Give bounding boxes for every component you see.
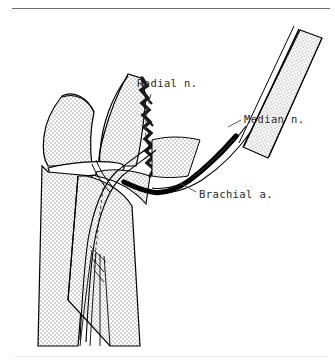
label-radial-nerve: Radial n. [137, 77, 198, 89]
distal-humerus-fragment [152, 137, 200, 178]
leader-line-median [228, 120, 241, 127]
label-brachial-artery: Brachial a. [199, 188, 273, 200]
medial-epicondyle [43, 94, 94, 166]
humerus-shaft [239, 26, 322, 158]
anatomical-figure: Radial n. Median n. Brachial a. [0, 0, 335, 362]
label-median-nerve: Median n. [244, 113, 305, 125]
anatomy-drawing [0, 0, 335, 362]
